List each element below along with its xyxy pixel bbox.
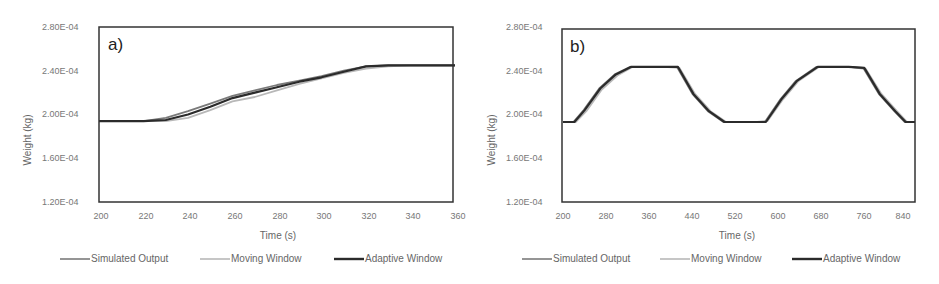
y-tick: 1.60E-04 — [506, 153, 543, 163]
series-moving-window — [99, 65, 455, 121]
x-tick: 240 — [182, 211, 197, 221]
x-tick: 360 — [641, 211, 656, 221]
legend-label: Adaptive Window — [365, 253, 443, 264]
panel-label: a) — [108, 35, 123, 54]
legend-label: Moving Window — [691, 253, 762, 264]
x-axis-label: Time (s) — [260, 230, 296, 241]
series-adaptive-window — [99, 65, 455, 121]
x-tick: 760 — [856, 211, 871, 221]
y-tick-labels: 2.80E-04 2.40E-04 2.00E-04 1.60E-04 1.20… — [506, 22, 543, 207]
legend-label: Simulated Output — [91, 253, 168, 264]
y-axis-label: Weight (kg) — [22, 115, 33, 166]
x-tick: 200 — [555, 211, 570, 221]
y-tick-labels: 2.80E-04 2.40E-04 2.00E-04 1.60E-04 1.20… — [42, 22, 79, 207]
y-tick: 2.00E-04 — [506, 109, 543, 119]
y-tick: 2.00E-04 — [42, 109, 79, 119]
panel-label: b) — [570, 37, 585, 56]
legend-label: Adaptive Window — [823, 253, 901, 264]
legend: Simulated Output Moving Window Adaptive … — [522, 253, 901, 264]
plot-frame — [99, 27, 453, 202]
x-axis-label: Time (s) — [719, 230, 755, 241]
y-axis-label: Weight (kg) — [486, 115, 497, 166]
plot-area — [563, 67, 915, 122]
y-tick: 2.40E-04 — [506, 66, 543, 76]
plot-frame — [562, 29, 915, 202]
legend-label: Simulated Output — [553, 253, 630, 264]
chart-b: 2.80E-04 2.40E-04 2.00E-04 1.60E-04 1.20… — [470, 0, 939, 284]
x-tick: 220 — [138, 211, 153, 221]
x-tick: 600 — [770, 211, 785, 221]
x-tick: 680 — [813, 211, 828, 221]
x-tick: 440 — [684, 211, 699, 221]
x-tick-labels: 200 280 360 440 520 600 680 760 840 — [555, 211, 910, 221]
x-tick: 280 — [272, 211, 287, 221]
series-simulated-output — [99, 65, 455, 121]
plot-area — [99, 65, 455, 121]
y-tick: 1.20E-04 — [506, 197, 543, 207]
y-tick: 2.80E-04 — [42, 22, 79, 32]
legend: Simulated Output Moving Window Adaptive … — [60, 253, 443, 264]
legend-label: Moving Window — [231, 253, 302, 264]
series-adaptive-window — [563, 67, 915, 122]
x-tick: 360 — [450, 211, 465, 221]
x-tick: 840 — [895, 211, 910, 221]
y-tick: 1.60E-04 — [42, 153, 79, 163]
chart-b-svg: 2.80E-04 2.40E-04 2.00E-04 1.60E-04 1.20… — [470, 0, 939, 284]
chart-a: 2.80E-04 2.40E-04 2.00E-04 1.60E-04 1.20… — [0, 0, 470, 284]
x-tick: 260 — [227, 211, 242, 221]
x-tick: 320 — [361, 211, 376, 221]
x-tick-labels: 200 220 240 260 280 300 320 340 360 — [93, 211, 465, 221]
x-tick: 280 — [598, 211, 613, 221]
y-tick: 2.40E-04 — [42, 66, 79, 76]
x-tick: 200 — [93, 211, 108, 221]
x-tick: 340 — [405, 211, 420, 221]
y-tick: 2.80E-04 — [506, 22, 543, 32]
y-tick: 1.20E-04 — [42, 197, 79, 207]
chart-a-svg: 2.80E-04 2.40E-04 2.00E-04 1.60E-04 1.20… — [0, 0, 470, 284]
x-tick: 520 — [727, 211, 742, 221]
x-tick: 300 — [316, 211, 331, 221]
